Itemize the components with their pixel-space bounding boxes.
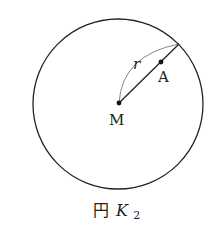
caption-name: K xyxy=(115,201,129,220)
radius-label: r xyxy=(133,55,141,73)
center-label: M xyxy=(109,111,124,129)
point-a xyxy=(159,60,164,65)
point-a-label: A xyxy=(157,68,169,86)
caption-prefix: 円 xyxy=(93,201,109,220)
caption: 円 K 2 xyxy=(93,201,140,222)
caption-subscript: 2 xyxy=(133,209,140,222)
circle-diagram: r A M 円 K 2 xyxy=(0,0,213,227)
center-point-m xyxy=(117,101,122,106)
